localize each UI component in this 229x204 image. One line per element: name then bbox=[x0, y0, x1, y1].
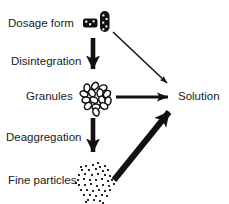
capsule-speck bbox=[105, 25, 107, 27]
fine-particle-dot bbox=[98, 189, 100, 191]
capsule-icon bbox=[100, 11, 110, 32]
fine-particle-dot bbox=[91, 174, 93, 176]
fine-particle-dot bbox=[95, 195, 97, 197]
tablet-icon bbox=[83, 19, 98, 28]
fine-particle-dot bbox=[85, 165, 87, 167]
fine-particle-dot bbox=[99, 200, 101, 202]
fine-particle-dot bbox=[102, 202, 104, 204]
granule-cluster-icon bbox=[79, 81, 112, 117]
node-label-granules: Granules bbox=[26, 90, 73, 102]
fine-particle-dot bbox=[109, 189, 111, 191]
fine-particle-dot bbox=[85, 201, 87, 203]
fine-particle-dot bbox=[95, 168, 97, 170]
arrow-dosage-form-to-solution bbox=[113, 32, 167, 83]
tablet-speck bbox=[85, 21, 87, 23]
fine-particle-dot bbox=[101, 178, 103, 180]
fine-particle-dot bbox=[80, 166, 82, 168]
fine-particle-dot bbox=[104, 174, 106, 176]
fine-particle-dot bbox=[83, 194, 85, 196]
fine-particle-dot bbox=[107, 180, 109, 182]
fine-particle-dot bbox=[81, 169, 83, 171]
fine-particle-dot bbox=[107, 169, 109, 171]
tablet-and-capsule-icon bbox=[83, 11, 110, 32]
fine-particle-dot bbox=[111, 179, 113, 181]
node-label-dosage-form: Dosage form bbox=[8, 17, 74, 29]
fine-particle-cluster-icon bbox=[75, 162, 115, 204]
node-label-fine-particles: Fine particles bbox=[8, 174, 77, 186]
fine-particle-dot bbox=[97, 162, 99, 164]
tablet-speck bbox=[89, 23, 91, 25]
fine-particle-dot bbox=[89, 194, 91, 196]
fine-particle-dot bbox=[90, 183, 92, 185]
fine-particle-dot bbox=[83, 178, 85, 180]
fine-particle-dot bbox=[102, 170, 104, 172]
fine-particle-dot bbox=[78, 174, 80, 176]
fine-particle-dot bbox=[113, 183, 115, 185]
fine-particle-dot bbox=[104, 165, 106, 167]
fine-particle-dot bbox=[92, 190, 94, 192]
fine-particle-dot bbox=[108, 185, 110, 187]
dissolution-pathway-diagram: Dosage form Granules Fine particles Solu… bbox=[0, 0, 229, 204]
tablet-speck bbox=[93, 20, 95, 22]
capsule-speck bbox=[102, 14, 104, 16]
fine-particle-dot bbox=[87, 199, 89, 201]
fine-particle-dot bbox=[101, 194, 103, 196]
arrow-fine-particles-to-solution bbox=[114, 112, 169, 180]
fine-particle-dot bbox=[109, 175, 111, 177]
edge-label-disintegration: Disintegration bbox=[11, 55, 81, 67]
fine-particle-dot bbox=[77, 179, 79, 181]
fine-particle-dot bbox=[96, 185, 98, 187]
fine-particle-dot bbox=[86, 189, 88, 191]
fine-particle-dot bbox=[104, 190, 106, 192]
fine-particle-dot bbox=[99, 166, 101, 168]
fine-particle-dot bbox=[93, 199, 95, 201]
fine-particle-dot bbox=[106, 195, 108, 197]
fine-particle-dot bbox=[84, 173, 86, 175]
fine-particle-dot bbox=[89, 179, 91, 181]
node-label-solution: Solution bbox=[178, 90, 220, 102]
edge-label-deaggregation: Deaggregation bbox=[6, 131, 81, 143]
fine-particle-dot bbox=[92, 164, 94, 166]
fine-particle-dot bbox=[88, 169, 90, 171]
fine-particle-dot bbox=[78, 184, 80, 186]
fine-particle-dot bbox=[95, 179, 97, 181]
fine-particle-dot bbox=[75, 182, 77, 184]
capsule-speck bbox=[106, 18, 108, 20]
fine-particle-dot bbox=[80, 189, 82, 191]
diagram-canvas: Dosage form Granules Fine particles Solu… bbox=[0, 0, 229, 204]
capsule-speck bbox=[102, 28, 104, 30]
fine-particle-dot bbox=[102, 184, 104, 186]
fine-particle-dot bbox=[97, 173, 99, 175]
capsule-speck bbox=[102, 22, 104, 24]
fine-particle-dot bbox=[84, 184, 86, 186]
